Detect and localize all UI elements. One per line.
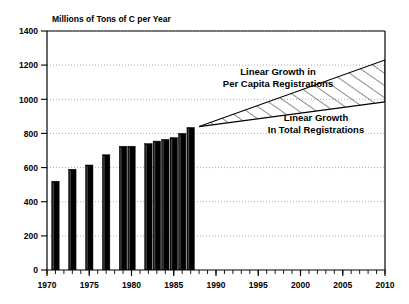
y-tick-label: 0 [33,265,38,275]
annotation-per-capita-line2: Per Capita Registrations [223,78,333,89]
y-tick-label: 200 [24,231,38,241]
annotation-total-line2: In Total Registrations [268,124,364,135]
bar-highlight [129,147,130,269]
bar-highlight [103,156,104,269]
x-tick-label: 1995 [249,280,268,290]
x-tick-label: 2000 [291,280,310,290]
bar-highlight [154,142,155,269]
bar-highlight [179,135,180,270]
bar-highlight [188,129,189,270]
chart-background [0,0,409,304]
x-tick-label: 1990 [207,280,226,290]
bar-highlight [70,170,71,269]
x-axis-labels: 197019751980198519901995200020052010 [38,280,395,290]
bar-highlight [53,182,54,269]
x-tick-label: 2005 [333,280,352,290]
bar-highlight [163,141,164,270]
x-tick-label: 1980 [122,280,141,290]
y-tick-label: 600 [24,163,38,173]
x-tick-label: 1970 [38,280,57,290]
chart-container: Millions of Tons of C per Year [0,0,409,304]
emissions-chart: Millions of Tons of C per Year [0,0,409,304]
y-tick-label: 400 [24,197,38,207]
chart-title: Millions of Tons of C per Year [52,14,171,24]
bar-highlight [146,145,147,269]
x-tick-label: 1985 [164,280,183,290]
y-tick-label: 800 [24,129,38,139]
x-tick-label: 1975 [80,280,99,290]
annotation-per-capita-line1: Linear Growth in [240,66,316,77]
annotation-total-line1: Linear Growth [284,112,349,123]
bar-highlight [86,166,87,269]
y-tick-label: 1000 [19,95,38,105]
bar-highlight [171,139,172,269]
x-tick-label: 2010 [376,280,395,290]
y-tick-label: 1400 [19,26,38,36]
y-tick-label: 1200 [19,60,38,70]
bar-highlight [120,147,121,269]
